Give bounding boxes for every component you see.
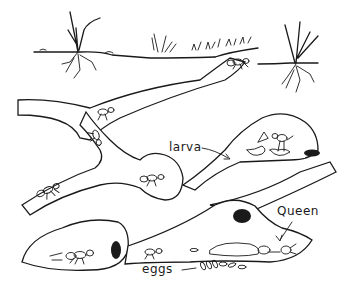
chamber-entrance [304, 150, 320, 157]
label-queen: Queen [277, 205, 319, 217]
ground-surface [34, 48, 318, 64]
lower-chambers [22, 200, 312, 270]
label-eggs: eggs [142, 263, 173, 275]
label-larva: larva [169, 141, 202, 153]
chamber-entrance [233, 209, 251, 223]
tunnel-upper [18, 58, 245, 140]
chamber-entrance [111, 241, 121, 259]
